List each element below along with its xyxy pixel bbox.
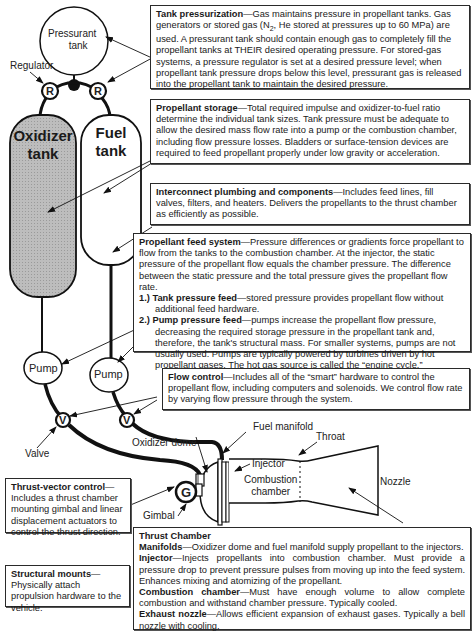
fuel-tank-label: Fuel tank	[81, 124, 141, 160]
oxidizer-dome-label: Oxidizer dome	[132, 437, 196, 448]
thrust-chamber-item-nozzle: Exhaust nozzle—Allows efficient expansio…	[139, 609, 465, 631]
thrust-chamber-item-manifolds: Manifolds—Oxidizer dome and fuel manifol…	[139, 542, 465, 553]
pump-oxidizer-label: Pump	[29, 362, 58, 374]
thrust-chamber-item-injector: Injector—Injects propellants into combus…	[139, 553, 465, 587]
tank-pressurization-box: Tank pressurization—Gas maintains pressu…	[150, 5, 470, 89]
fuel-manifold-label: Fuel manifold	[253, 421, 313, 432]
thrust-chamber-box: Thrust Chamber Manifolds—Oxidizer dome a…	[133, 527, 471, 630]
regulator-symbol-oxidizer: R	[46, 85, 54, 97]
thrust-chamber-title: Thrust Chamber	[139, 531, 211, 541]
feed-item-tank-pressure: 1.) Tank pressure feed—stored pressure p…	[139, 293, 465, 315]
interconnect-box: Interconnect plumbing and components—Inc…	[150, 183, 470, 225]
throat-label: Throat	[316, 431, 345, 442]
valve-symbol-fuel: V	[123, 414, 130, 426]
regulator-label: Regulator	[10, 60, 53, 71]
valve-symbol-oxidizer: V	[59, 414, 66, 426]
flow-control-box: Flow control—Includes all of the “smart”…	[162, 368, 470, 410]
pressurant-tank-label: Pressurant tank	[48, 28, 96, 52]
thrust-chamber-item-combustion: Combustion chamber—Must have enough volu…	[139, 587, 465, 609]
pump-fuel-label: Pump	[94, 368, 123, 380]
propellant-feed-system-box: Propellant feed system—Pressure differen…	[133, 233, 471, 352]
structural-mounts-box: Structural mounts—Physically attach prop…	[5, 565, 130, 607]
gimbal-label: Gimbal	[143, 510, 175, 521]
thrust-vector-control-box: Thrust-vector control—Includes a thrust …	[5, 478, 131, 533]
junction-node	[68, 79, 80, 91]
feed-item-pump-pressure: 2.) Pump pressure feed—pumps increase th…	[139, 315, 465, 371]
gimbal-symbol: G	[181, 485, 191, 500]
propellant-storage-box: Propellant storage—Total required impuls…	[150, 99, 470, 164]
combustion-chamber-label: Combustion chamber	[244, 474, 297, 498]
injector-label: Injector	[252, 458, 285, 469]
oxidizer-tank-label: Oxidizer tank	[10, 127, 76, 163]
regulator-symbol-fuel: R	[94, 85, 102, 97]
nozzle-label: Nozzle	[380, 476, 411, 487]
valve-label: Valve	[25, 448, 49, 459]
